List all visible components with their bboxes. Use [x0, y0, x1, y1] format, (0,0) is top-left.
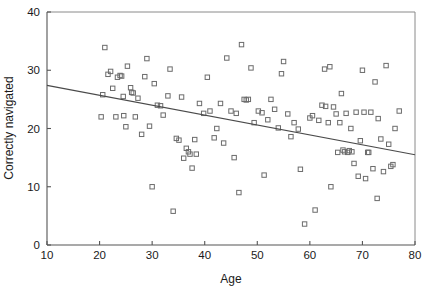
data-point-marker: [369, 110, 373, 114]
data-point-marker: [289, 134, 293, 138]
x-tick-label: 10: [41, 249, 54, 261]
data-point-marker: [352, 161, 356, 165]
data-point-marker: [272, 107, 276, 111]
data-point-marker: [147, 124, 151, 128]
data-point-marker: [121, 94, 125, 98]
axis-tick-labels: 1020304050607080010203040: [27, 6, 421, 261]
data-point-marker: [331, 105, 335, 109]
data-point-marker: [349, 126, 353, 130]
data-point-marker: [334, 112, 338, 116]
data-point-marker: [269, 97, 273, 101]
y-axis-title: Correctly navigated: [2, 76, 16, 179]
data-point-marker: [313, 208, 317, 212]
data-point-marker: [317, 118, 321, 122]
data-point-marker: [145, 56, 149, 60]
data-point-marker: [296, 127, 300, 131]
data-point-marker: [168, 67, 172, 71]
data-point-marker: [279, 72, 283, 76]
data-point-marker: [344, 111, 348, 115]
data-point-marker: [336, 150, 340, 154]
data-point-marker: [133, 115, 137, 119]
y-tick-label: 10: [27, 181, 40, 193]
data-point-marker: [328, 65, 332, 69]
y-tick-label: 40: [27, 6, 40, 18]
data-point-marker: [373, 80, 377, 84]
data-point-marker: [215, 126, 219, 130]
data-point-marker: [221, 141, 225, 145]
data-point-marker: [150, 185, 154, 189]
x-tick-label: 30: [146, 249, 159, 261]
data-point-marker: [360, 68, 364, 72]
data-point-marker: [124, 125, 128, 129]
data-point-marker: [358, 139, 362, 143]
data-point-marker: [371, 166, 375, 170]
data-point-marker: [356, 174, 360, 178]
data-point-marker: [362, 110, 366, 114]
data-point-marker: [166, 94, 170, 98]
data-point-marker: [205, 75, 209, 79]
x-tick-label: 40: [198, 249, 211, 261]
x-tick-label: 80: [409, 249, 422, 261]
data-point-marker: [152, 81, 156, 85]
x-tick-label: 60: [303, 249, 316, 261]
data-point-marker: [376, 116, 380, 120]
data-point-marker: [234, 111, 238, 115]
data-point-marker: [363, 176, 367, 180]
data-point-marker: [181, 156, 185, 160]
data-point-marker: [249, 66, 253, 70]
data-point-marker: [114, 115, 118, 119]
data-point-marker: [379, 137, 383, 141]
data-point-marker: [339, 91, 343, 95]
data-point-marker: [239, 42, 243, 46]
data-point-marker: [232, 155, 236, 159]
regression-trend-line: [47, 85, 415, 154]
data-point-marker: [397, 109, 401, 113]
data-point-marker: [218, 101, 222, 105]
x-tick-label: 20: [93, 249, 106, 261]
data-point-marker: [197, 101, 201, 105]
data-point-marker: [225, 56, 229, 60]
data-point-marker: [161, 113, 165, 117]
data-point-marker: [193, 137, 197, 141]
data-point-markers: [99, 42, 401, 226]
x-tick-label: 50: [251, 249, 264, 261]
data-point-marker: [111, 86, 115, 90]
data-point-marker: [266, 118, 270, 122]
data-point-marker: [338, 120, 342, 124]
data-point-marker: [281, 59, 285, 63]
data-point-marker: [387, 142, 391, 146]
data-point-marker: [302, 222, 306, 226]
data-point-marker: [229, 109, 233, 113]
data-point-marker: [125, 64, 129, 68]
data-point-marker: [384, 63, 388, 67]
data-point-marker: [171, 209, 175, 213]
data-point-marker: [393, 126, 397, 130]
trend-line: [47, 85, 415, 154]
data-point-marker: [322, 67, 326, 71]
data-point-marker: [292, 120, 296, 124]
y-tick-label: 30: [27, 64, 40, 76]
data-point-marker: [381, 169, 385, 173]
data-point-marker: [286, 112, 290, 116]
data-point-marker: [375, 196, 379, 200]
data-point-marker: [329, 185, 333, 189]
y-tick-label: 20: [27, 123, 40, 135]
data-point-marker: [212, 136, 216, 140]
data-point-marker: [194, 152, 198, 156]
y-tick-label: 0: [34, 239, 40, 251]
x-axis-title: Age: [220, 272, 242, 286]
data-point-marker: [190, 166, 194, 170]
data-point-marker: [237, 190, 241, 194]
data-point-marker: [354, 110, 358, 114]
data-point-marker: [128, 86, 132, 90]
data-point-marker: [99, 115, 103, 119]
plot-canvas: 1020304050607080010203040 Age Correctly …: [0, 0, 434, 287]
data-point-marker: [179, 95, 183, 99]
data-point-marker: [298, 167, 302, 171]
data-point-marker: [103, 45, 107, 49]
data-point-marker: [136, 96, 140, 100]
data-point-marker: [122, 113, 126, 117]
data-point-marker: [139, 132, 143, 136]
data-point-marker: [326, 120, 330, 124]
data-point-marker: [143, 74, 147, 78]
